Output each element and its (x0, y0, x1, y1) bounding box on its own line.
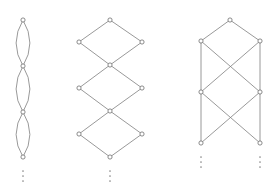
graph-vertex (21, 64, 25, 68)
vertical-ellipsis-dot (200, 156, 202, 158)
graph-vertex (199, 90, 203, 94)
vertical-ellipsis-dot (22, 175, 24, 177)
vertical-ellipsis-dot (109, 180, 111, 182)
graph-vertex (258, 90, 262, 94)
graph-vertex (228, 18, 232, 22)
vertical-ellipsis-dot (259, 156, 261, 158)
graph-vertex (199, 39, 203, 43)
graph-vertex (108, 155, 112, 159)
graph-vertex (77, 86, 81, 90)
vertical-ellipsis-dot (259, 166, 261, 168)
graph-vertex (108, 63, 112, 67)
graph-vertex (77, 40, 81, 44)
graph-vertex (21, 18, 25, 22)
graph-vertex (140, 132, 144, 136)
vertical-ellipsis-dot (259, 161, 261, 163)
graph-vertex (21, 155, 25, 159)
graph-vertex (21, 110, 25, 114)
graph-vertex (258, 141, 262, 145)
graph-vertex (77, 132, 81, 136)
vertical-ellipsis-dot (200, 161, 202, 163)
graph-diagram-canvas (0, 0, 275, 191)
graph-vertex (258, 39, 262, 43)
vertical-ellipsis-dot (22, 180, 24, 182)
canvas-background (0, 0, 275, 191)
vertical-ellipsis-dot (109, 170, 111, 172)
vertical-ellipsis-dot (22, 170, 24, 172)
graph-vertex (140, 40, 144, 44)
graph-vertex (108, 109, 112, 113)
vertical-ellipsis-dot (109, 175, 111, 177)
graph-vertex (140, 86, 144, 90)
vertical-ellipsis-dot (200, 166, 202, 168)
graph-vertex (108, 18, 112, 22)
graph-vertex (199, 141, 203, 145)
